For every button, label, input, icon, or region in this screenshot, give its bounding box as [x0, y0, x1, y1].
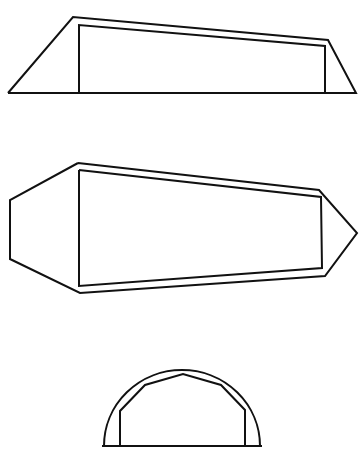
end-view-inner-outline — [120, 374, 245, 446]
top-view-inner-outline — [79, 170, 322, 286]
diagram-canvas — [0, 0, 359, 453]
end-view-outer-arc — [104, 370, 260, 446]
top-view-figure — [10, 163, 357, 293]
side-view-inner-outline — [79, 25, 325, 93]
end-view-figure — [102, 370, 262, 446]
side-view-outer-outline — [8, 17, 356, 93]
side-view-figure — [8, 17, 356, 93]
